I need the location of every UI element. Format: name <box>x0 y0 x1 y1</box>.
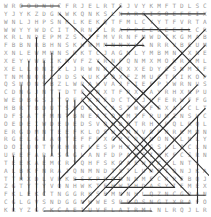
grid-cell[interactable]: S <box>40 198 48 206</box>
grid-cell[interactable]: N <box>79 112 87 120</box>
grid-cell[interactable]: I <box>17 143 25 151</box>
grid-cell[interactable]: R <box>178 198 186 206</box>
grid-cell[interactable]: L <box>193 104 201 112</box>
grid-cell[interactable]: E <box>86 18 94 26</box>
grid-cell[interactable]: R <box>56 143 64 151</box>
grid-cell[interactable]: E <box>140 26 148 34</box>
grid-cell[interactable]: W <box>71 104 79 112</box>
grid-cell[interactable]: S <box>140 151 148 159</box>
grid-cell[interactable]: T <box>56 96 64 104</box>
grid-cell[interactable]: N <box>178 112 186 120</box>
grid-cell[interactable]: O <box>201 198 209 206</box>
grid-cell[interactable]: R <box>170 128 178 136</box>
grid-cell[interactable]: T <box>33 112 41 120</box>
grid-cell[interactable]: T <box>193 18 201 26</box>
grid-cell[interactable]: N <box>25 73 33 81</box>
grid-cell[interactable]: L <box>17 190 25 198</box>
grid-cell[interactable]: I <box>178 49 186 57</box>
grid-cell[interactable]: G <box>155 104 163 112</box>
grid-cell[interactable]: B <box>102 190 110 198</box>
grid-cell[interactable]: N <box>117 190 125 198</box>
grid-cell[interactable]: S <box>102 143 110 151</box>
grid-cell[interactable]: T <box>94 26 102 34</box>
grid-cell[interactable]: E <box>40 159 48 167</box>
grid-cell[interactable]: R <box>56 175 64 183</box>
grid-cell[interactable]: R <box>109 26 117 34</box>
grid-cell[interactable]: F <box>79 88 87 96</box>
grid-cell[interactable]: T <box>25 104 33 112</box>
grid-cell[interactable]: O <box>33 65 41 73</box>
grid-cell[interactable]: T <box>2 159 10 167</box>
grid-cell[interactable]: C <box>186 143 194 151</box>
grid-cell[interactable]: U <box>48 2 56 10</box>
grid-cell[interactable]: N <box>186 88 194 96</box>
grid-cell[interactable]: R <box>163 175 171 183</box>
grid-cell[interactable]: R <box>79 26 87 34</box>
grid-cell[interactable]: R <box>132 206 140 214</box>
grid-cell[interactable]: R <box>186 18 194 26</box>
grid-cell[interactable]: N <box>186 135 194 143</box>
grid-cell[interactable]: O <box>155 167 163 175</box>
grid-cell[interactable]: W <box>140 159 148 167</box>
grid-cell[interactable]: R <box>63 159 71 167</box>
grid-cell[interactable]: Q <box>33 73 41 81</box>
grid-cell[interactable]: N <box>56 41 64 49</box>
grid-cell[interactable]: L <box>170 143 178 151</box>
grid-cell[interactable]: B <box>40 41 48 49</box>
grid-cell[interactable]: N <box>10 18 18 26</box>
grid-cell[interactable]: A <box>48 151 56 159</box>
grid-cell[interactable]: X <box>186 49 194 57</box>
grid-cell[interactable]: K <box>71 41 79 49</box>
grid-cell[interactable]: V <box>71 57 79 65</box>
grid-cell[interactable]: C <box>40 206 48 214</box>
grid-cell[interactable]: L <box>186 26 194 34</box>
grid-cell[interactable]: V <box>102 80 110 88</box>
grid-cell[interactable]: G <box>186 57 194 65</box>
grid-cell[interactable]: X <box>132 65 140 73</box>
grid-cell[interactable]: X <box>125 41 133 49</box>
grid-cell[interactable]: F <box>94 33 102 41</box>
grid-cell[interactable]: C <box>2 88 10 96</box>
grid-cell[interactable]: U <box>48 104 56 112</box>
grid-cell[interactable]: C <box>117 96 125 104</box>
grid-cell[interactable]: A <box>109 49 117 57</box>
grid-cell[interactable]: N <box>56 112 64 120</box>
grid-cell[interactable]: M <box>147 167 155 175</box>
grid-cell[interactable]: W <box>94 198 102 206</box>
grid-cell[interactable]: T <box>63 26 71 34</box>
grid-cell[interactable]: F <box>2 190 10 198</box>
grid-cell[interactable]: S <box>193 159 201 167</box>
grid-cell[interactable]: P <box>125 26 133 34</box>
grid-cell[interactable]: G <box>140 10 148 18</box>
grid-cell[interactable]: A <box>170 104 178 112</box>
grid-cell[interactable]: U <box>147 73 155 81</box>
grid-cell[interactable]: N <box>201 128 209 136</box>
grid-cell[interactable]: L <box>17 18 25 26</box>
grid-cell[interactable]: U <box>86 73 94 81</box>
grid-cell[interactable]: F <box>86 135 94 143</box>
grid-cell[interactable]: W <box>86 65 94 73</box>
grid-cell[interactable]: P <box>40 18 48 26</box>
grid-cell[interactable]: R <box>102 57 110 65</box>
grid-cell[interactable]: I <box>178 26 186 34</box>
grid-cell[interactable]: R <box>125 88 133 96</box>
grid-cell[interactable]: L <box>140 190 148 198</box>
grid-cell[interactable]: T <box>201 104 209 112</box>
grid-cell[interactable]: R <box>170 73 178 81</box>
grid-cell[interactable]: E <box>155 26 163 34</box>
grid-cell[interactable]: U <box>155 112 163 120</box>
grid-cell[interactable]: T <box>163 167 171 175</box>
grid-cell[interactable]: L <box>178 104 186 112</box>
grid-cell[interactable]: B <box>48 80 56 88</box>
grid-cell[interactable]: C <box>155 73 163 81</box>
grid-cell[interactable]: Z <box>155 190 163 198</box>
grid-cell[interactable]: Q <box>193 120 201 128</box>
grid-cell[interactable]: F <box>193 96 201 104</box>
grid-cell[interactable]: Y <box>17 57 25 65</box>
grid-cell[interactable]: Y <box>79 73 87 81</box>
grid-cell[interactable]: A <box>33 159 41 167</box>
grid-cell[interactable]: L <box>170 159 178 167</box>
grid-cell[interactable]: D <box>109 151 117 159</box>
grid-cell[interactable]: A <box>193 33 201 41</box>
grid-cell[interactable]: T <box>2 73 10 81</box>
